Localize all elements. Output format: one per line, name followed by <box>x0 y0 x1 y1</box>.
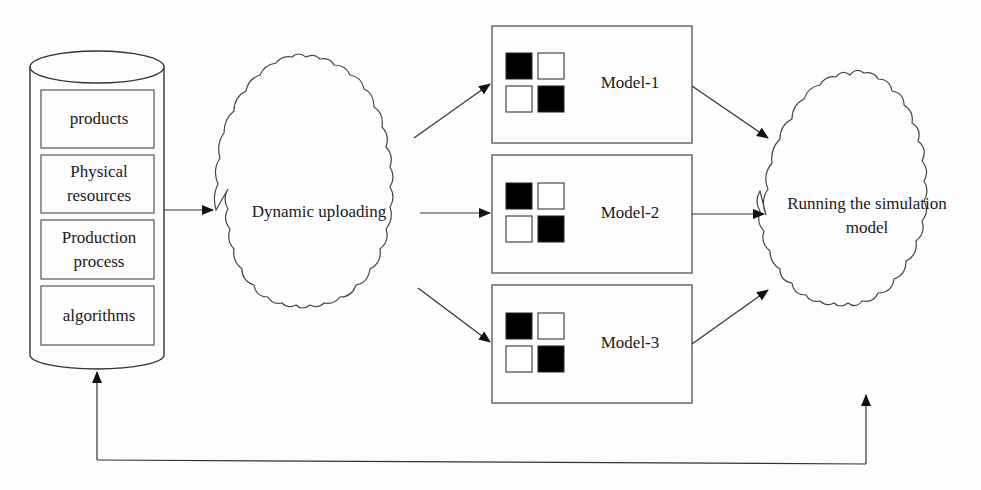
model-3-label: Model-3 <box>580 331 680 355</box>
database-item-algorithms: algorithms <box>44 286 154 345</box>
database-item-production-process: Production process <box>44 220 154 279</box>
running-simulation-cloud <box>757 70 927 306</box>
arrow-upload-to-model-3 <box>418 288 490 342</box>
running-simulation-label: Running the simulation model <box>762 192 972 240</box>
dynamic-uploading-label: Dynamic uploading <box>224 200 414 224</box>
model-2-label: Model-2 <box>580 201 680 225</box>
database-item-products: products <box>44 90 154 148</box>
feedback-loop-line <box>97 460 866 464</box>
arrow-model-1-to-run <box>692 86 768 138</box>
arrows <box>97 84 866 464</box>
dynamic-uploading-cloud <box>214 54 393 308</box>
arrow-model-3-to-run <box>692 290 768 344</box>
database-item-physical-resources: Physical resources <box>44 155 154 213</box>
arrow-upload-to-model-1 <box>414 84 490 138</box>
model-1-label: Model-1 <box>580 71 680 95</box>
